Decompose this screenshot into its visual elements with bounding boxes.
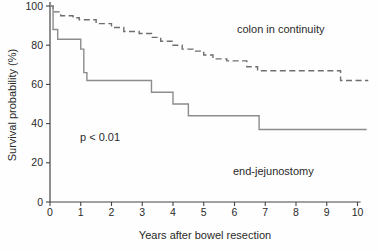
y-tick-label: 20 — [31, 156, 43, 168]
colon-curve-label: colon in continuity — [237, 23, 324, 35]
x-tick-label: 2 — [109, 206, 115, 218]
x-tick-label: 9 — [324, 206, 330, 218]
y-axis-label: Survival probability (%) — [6, 0, 18, 210]
y-tick-label: 40 — [31, 117, 43, 129]
survival-figure: 012345678910020406080100 colon in contin… — [0, 0, 378, 251]
plot-area: 012345678910020406080100 — [0, 0, 378, 251]
x-tick-label: 4 — [170, 206, 176, 218]
jejunostomy-curve-label: end-jejunostomy — [233, 165, 314, 177]
x-tick-label: 5 — [201, 206, 207, 218]
x-tick-label: 7 — [262, 206, 268, 218]
x-tick-label: 0 — [47, 206, 53, 218]
x-tick-label: 10 — [352, 206, 364, 218]
x-tick-label: 6 — [232, 206, 238, 218]
x-tick-label: 8 — [293, 206, 299, 218]
y-tick-label: 100 — [25, 0, 43, 12]
x-tick-label: 1 — [78, 206, 84, 218]
y-tick-label: 80 — [31, 39, 43, 51]
y-tick-label: 0 — [37, 196, 43, 208]
x-tick-label: 3 — [139, 206, 145, 218]
y-tick-label: 60 — [31, 78, 43, 90]
p-value-label: p < 0.01 — [80, 131, 120, 143]
survival-curve-colon — [50, 6, 368, 80]
x-axis-label: Years after bowel resection — [50, 229, 360, 241]
